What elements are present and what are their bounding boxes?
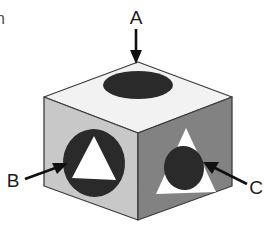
annotation-a: A — [130, 7, 143, 64]
annotation-a-label: A — [130, 7, 143, 28]
annotation-c-label: C — [249, 177, 263, 198]
cube-diagram: A B C n — [0, 0, 269, 233]
annotation-a-arrowhead — [130, 50, 142, 64]
edge-text-fragment: n — [0, 10, 5, 27]
figure-container: A B C n — [0, 0, 269, 233]
top-face-ellipse-hole — [103, 71, 173, 99]
annotation-b-label: B — [7, 170, 20, 191]
